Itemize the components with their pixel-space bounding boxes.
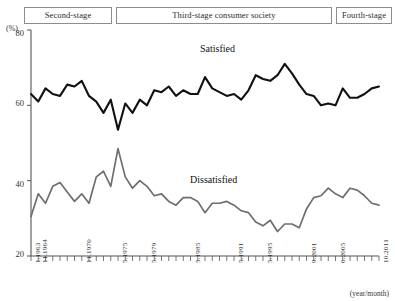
x-tick-label: 5.1985: [194, 243, 202, 263]
x-tick-label: 11.1964: [41, 239, 49, 263]
x-tick-label: 5.1975: [121, 243, 129, 263]
x-tick-label: 10.2011: [382, 239, 390, 263]
chart-screenshot: Second-stage Third-stage consumer societ…: [0, 0, 395, 301]
x-tick-label: 11.1970: [85, 239, 93, 263]
x-tick-label: 9.2001: [310, 243, 318, 263]
series-line-dissatisfied: [31, 149, 379, 232]
x-tick-label: 6.2005: [339, 243, 347, 263]
chart-x-ticks: [31, 256, 379, 261]
x-tick-label: 5.1995: [266, 243, 274, 263]
series-line-satisfied: [31, 64, 379, 130]
x-tick-label: 5.1991: [237, 243, 245, 263]
x-tick-label: 5.1979: [150, 243, 158, 263]
chart-axes: [27, 30, 379, 256]
